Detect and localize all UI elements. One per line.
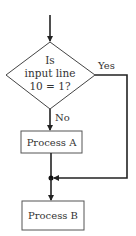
yes-label: Yes [97, 60, 115, 71]
flowchart: Is input line 10 = 1? Yes No Process A P… [0, 0, 136, 236]
process-a-label: Process A [27, 137, 77, 148]
decision-line-3: 10 = 1? [29, 80, 71, 92]
no-label: No [55, 112, 70, 123]
process-b-label: Process B [28, 210, 78, 221]
decision-line-1: Is [45, 54, 55, 66]
decision-line-2: input line [25, 67, 76, 79]
